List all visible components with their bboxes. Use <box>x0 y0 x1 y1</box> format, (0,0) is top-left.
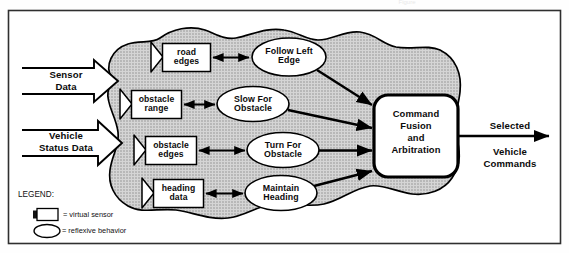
legend-virtual-sensor-symbol <box>37 209 58 221</box>
legend-item-reflexive-behavior-text: = reflexive behavior <box>62 226 126 235</box>
input-label-sensor-data: Sensor Data <box>26 69 106 94</box>
virtual-sensor-label-obstacle-range: obstacle range <box>132 95 181 113</box>
virtual-sensor-label-road-edges: road edges <box>163 48 210 66</box>
behavior-label-slow-for-obstacle: Slow For Obstacle <box>217 95 289 113</box>
virtual-sensor-label-heading-data: heading data <box>154 184 203 202</box>
output-label-bottom: Vehicle Commands <box>462 146 558 171</box>
legend-title: LEGEND: <box>18 190 54 199</box>
behavior-label-maintain-heading: Maintain Heading <box>245 184 317 202</box>
legend-reflexive-behavior-symbol <box>34 225 60 238</box>
fusion-label: Command Fusion and Arbitration <box>375 108 457 156</box>
virtual-sensor-label-obstacle-edges: obstacle edges <box>146 141 196 159</box>
figure-canvas: Figure <box>0 0 569 253</box>
input-label-vehicle-status-data: Vehicle Status Data <box>20 130 112 155</box>
behavior-label-follow-left-edge: Follow Left Edge <box>252 47 326 65</box>
output-label-top: Selected <box>462 120 558 132</box>
behavior-label-turn-for-obstacle: Turn For Obstacle <box>247 141 319 159</box>
legend-item-virtual-sensor-text: = virtual sensor <box>63 210 113 219</box>
